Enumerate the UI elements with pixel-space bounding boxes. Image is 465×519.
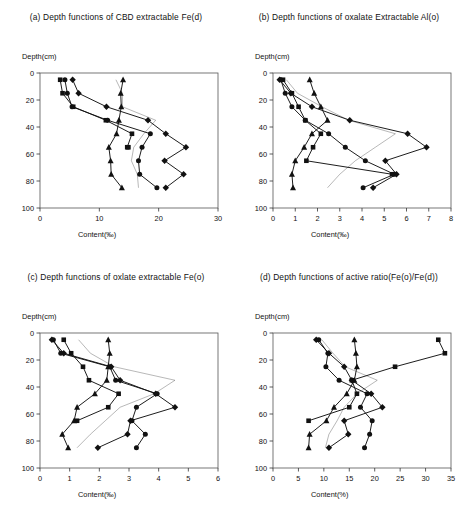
y-tick-label: 100 <box>22 204 34 213</box>
data-point-diamond <box>124 431 130 437</box>
data-point-square <box>296 104 301 109</box>
data-point-triangle <box>104 377 110 383</box>
data-point-triangle <box>108 157 114 163</box>
x-tick-label: 35 <box>447 474 455 483</box>
y-tick-label: 0 <box>263 69 267 78</box>
data-point-square <box>306 418 311 423</box>
x-tick-label: 5 <box>186 474 190 483</box>
data-point-diamond <box>95 445 101 451</box>
figure-container: (a) Depth functions of CBD extractable F… <box>0 0 465 519</box>
data-point-circle <box>289 104 294 109</box>
data-point-diamond <box>341 418 347 424</box>
data-point-circle <box>105 118 110 123</box>
y-tick-label: 20 <box>259 356 267 365</box>
data-point-diamond <box>345 431 351 437</box>
data-point-circle <box>140 145 145 150</box>
data-point-square <box>319 131 324 136</box>
x-tick-label: 20 <box>371 474 379 483</box>
y-tick-label: 20 <box>259 96 267 105</box>
data-point-circle <box>70 104 75 109</box>
data-point-circle <box>136 158 141 163</box>
x-tick-label: 30 <box>421 474 429 483</box>
data-point-circle <box>134 405 139 410</box>
data-point-triangle <box>65 444 71 450</box>
chart-panel-d: (d) Depth functions of active ratio(Fe(o… <box>233 260 465 519</box>
data-point-circle <box>148 131 153 136</box>
data-point-triangle <box>323 417 329 423</box>
x-tick-label: 20 <box>155 214 163 223</box>
data-point-square <box>347 405 352 410</box>
data-point-triangle <box>120 76 126 82</box>
x-tick-label: 6 <box>404 214 408 223</box>
data-point-triangle <box>105 336 111 342</box>
x-tick-label: 0 <box>271 474 275 483</box>
y-tick-label: 40 <box>26 383 34 392</box>
series-line-profile-5-thin <box>286 80 395 188</box>
data-point-triangle <box>118 103 124 109</box>
y-tick-label: 60 <box>259 150 267 159</box>
data-point-diamond <box>172 404 178 410</box>
data-point-square <box>106 405 111 410</box>
data-point-triangle <box>106 144 112 150</box>
series-line-profile-2 <box>53 340 157 448</box>
y-tick-label: 40 <box>26 123 34 132</box>
data-point-circle <box>343 145 348 150</box>
data-point-triangle <box>344 390 350 396</box>
data-point-circle <box>323 364 328 369</box>
y-tick-label: 0 <box>30 69 34 78</box>
y-tick-label: 0 <box>30 329 34 338</box>
x-tick-label: 25 <box>396 474 404 483</box>
chart-panel-a: (a) Depth functions of CBD extractable F… <box>0 0 232 259</box>
series-line-profile-5-thin <box>77 340 175 448</box>
x-tick-label: 2 <box>97 474 101 483</box>
data-point-square <box>60 91 65 96</box>
panel-d-plot: 02040608010005101520253035 <box>233 260 465 519</box>
data-point-triangle <box>353 350 359 356</box>
y-tick-label: 60 <box>26 150 34 159</box>
data-point-triangle <box>301 144 307 150</box>
data-point-triangle <box>114 130 120 136</box>
data-point-square <box>81 364 86 369</box>
x-tick-label: 0 <box>38 214 42 223</box>
data-point-circle <box>154 185 159 190</box>
chart-panel-c: (c) Depth functions of oxlate extractabl… <box>0 260 232 519</box>
x-tick-label: 2 <box>315 214 319 223</box>
y-tick-label: 100 <box>22 464 34 473</box>
x-tick-label: 7 <box>427 214 431 223</box>
y-tick-label: 40 <box>259 383 267 392</box>
data-point-circle <box>62 77 67 82</box>
data-point-circle <box>337 378 342 383</box>
y-tick-label: 80 <box>26 437 34 446</box>
y-tick-label: 100 <box>255 464 267 473</box>
data-point-square <box>393 364 398 369</box>
y-tick-label: 20 <box>26 96 34 105</box>
data-point-diamond <box>423 144 429 150</box>
data-point-diamond <box>347 117 353 123</box>
y-tick-label: 20 <box>26 356 34 365</box>
x-tick-label: 15 <box>345 474 353 483</box>
y-tick-label: 80 <box>259 437 267 446</box>
y-tick-label: 60 <box>259 410 267 419</box>
data-point-square <box>126 145 131 150</box>
x-tick-label: 3 <box>338 214 342 223</box>
data-point-square <box>87 378 92 383</box>
y-tick-label: 80 <box>259 177 267 186</box>
plot-frame <box>273 333 451 468</box>
data-point-circle <box>143 432 148 437</box>
x-tick-label: 1 <box>68 474 72 483</box>
chart-panel-b: (b) Depth functions of oxalate Extractab… <box>233 0 465 259</box>
data-point-diamond <box>404 131 410 137</box>
data-point-diamond <box>75 90 81 96</box>
x-tick-label: 0 <box>38 474 42 483</box>
data-point-circle <box>134 445 139 450</box>
data-point-circle <box>361 185 366 190</box>
y-tick-label: 80 <box>26 177 34 186</box>
data-point-triangle <box>289 171 295 177</box>
y-tick-label: 100 <box>255 204 267 213</box>
data-point-diamond <box>326 445 332 451</box>
data-point-triangle <box>325 117 331 123</box>
data-point-square <box>443 351 448 356</box>
data-point-triangle <box>108 171 114 177</box>
data-point-diamond <box>309 104 315 110</box>
data-point-square <box>311 145 316 150</box>
